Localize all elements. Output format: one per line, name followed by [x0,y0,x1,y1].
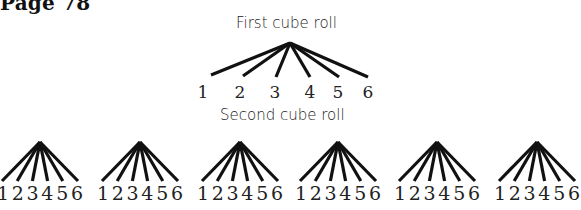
second-roll-outcome-label: 2 [12,182,24,204]
second-roll-outcome-label: 1 [97,182,109,204]
second-roll-outcome-label: 3 [227,182,239,204]
second-roll-outcome-label: 4 [141,182,153,204]
second-roll-outcome-label: 4 [339,182,351,204]
second-roll-subtree: 123456 [494,142,580,204]
second-roll-subtree: 123456 [197,142,283,204]
second-roll-outcome-label: 1 [295,182,307,204]
second-roll-subtree: 123456 [97,142,183,204]
tree-svg: 123456 123456123456123456123456123456123… [0,0,581,210]
second-roll-outcome-label: 5 [156,182,168,204]
second-roll-subtree: 123456 [394,142,480,204]
second-roll-outcome-label: 6 [271,182,283,204]
second-roll-outcome-label: 2 [509,182,521,204]
second-roll-outcome-label: 3 [524,182,536,204]
second-roll-outcome-label: 6 [468,182,480,204]
second-roll-outcome-label: 4 [41,182,53,204]
second-roll-outcome-label: 5 [256,182,268,204]
first-roll-outcome-label: 6 [363,82,374,102]
second-roll-outcome-label: 3 [27,182,39,204]
tree-diagram: Page 78 First cube roll Second cube roll… [0,0,581,210]
second-roll-outcome-label: 2 [409,182,421,204]
first-roll-outcome-label: 1 [198,82,209,102]
second-roll-outcome-label: 1 [0,182,9,204]
first-roll-outcome-label: 3 [270,82,281,102]
second-roll-outcome-label: 1 [494,182,506,204]
second-roll-outcome-label: 5 [354,182,366,204]
second-roll-outcome-label: 2 [212,182,224,204]
first-roll-outcome-label: 4 [305,82,316,102]
second-roll-outcome-label: 2 [112,182,124,204]
second-roll-outcome-label: 6 [369,182,381,204]
second-roll-outcome-label: 3 [127,182,139,204]
first-roll-outcome-label: 5 [333,82,344,102]
second-roll-outcome-label: 6 [71,182,83,204]
second-roll-outcome-label: 3 [325,182,337,204]
first-roll-outcome-label: 2 [235,82,246,102]
second-roll-outcome-label: 5 [56,182,68,204]
second-roll-outcome-label: 6 [568,182,580,204]
second-roll-branches: 123456123456123456123456123456123456 [0,142,580,204]
second-roll-subtree: 123456 [0,142,83,204]
second-roll-outcome-label: 4 [438,182,450,204]
second-roll-outcome-label: 5 [453,182,465,204]
second-roll-outcome-label: 6 [171,182,183,204]
second-roll-outcome-label: 1 [394,182,406,204]
first-roll-branches: 123456 [198,43,374,102]
second-roll-subtree: 123456 [295,142,381,204]
second-roll-outcome-label: 1 [197,182,209,204]
second-roll-outcome-label: 4 [241,182,253,204]
second-roll-outcome-label: 2 [310,182,322,204]
second-roll-outcome-label: 5 [553,182,565,204]
second-roll-outcome-label: 3 [424,182,436,204]
second-roll-outcome-label: 4 [538,182,550,204]
